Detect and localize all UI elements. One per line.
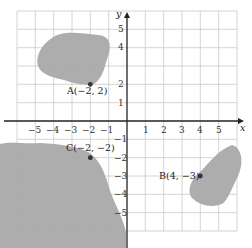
svg-text:5: 5 <box>216 125 222 135</box>
svg-text:2: 2 <box>118 79 124 89</box>
svg-text:1: 1 <box>143 125 149 135</box>
svg-text:−1: −1 <box>114 134 127 144</box>
svg-text:1: 1 <box>118 98 124 108</box>
svg-text:3: 3 <box>179 125 185 135</box>
region-a <box>37 33 110 85</box>
region-c <box>0 143 126 248</box>
svg-text:−4: −4 <box>114 189 128 199</box>
point-a-label: A(−2, 2) <box>66 85 107 96</box>
svg-text:5: 5 <box>118 24 124 34</box>
svg-text:−3: −3 <box>114 171 128 181</box>
svg-text:−2: −2 <box>82 125 95 135</box>
svg-text:−5: −5 <box>28 125 42 135</box>
svg-text:−1: −1 <box>100 125 113 135</box>
point-c-label: C(−2, −2) <box>66 142 115 153</box>
svg-text:−2: −2 <box>114 153 127 163</box>
svg-text:2: 2 <box>161 125 167 135</box>
svg-text:4: 4 <box>197 125 203 135</box>
y-axis-label: y <box>115 8 122 19</box>
x-axis-label: x <box>240 122 246 133</box>
point-c <box>88 155 93 160</box>
y-axis-arrow-icon <box>124 12 130 18</box>
svg-text:4: 4 <box>118 42 124 52</box>
svg-text:−3: −3 <box>64 125 78 135</box>
svg-text:−4: −4 <box>46 125 60 135</box>
coordinate-plane: y x −5 −4 −3 −2 −1 1 2 3 4 5 5 4 2 1 −1 … <box>0 0 252 248</box>
point-b-label: B(4, −3) <box>159 170 199 181</box>
svg-text:−5: −5 <box>114 208 128 218</box>
